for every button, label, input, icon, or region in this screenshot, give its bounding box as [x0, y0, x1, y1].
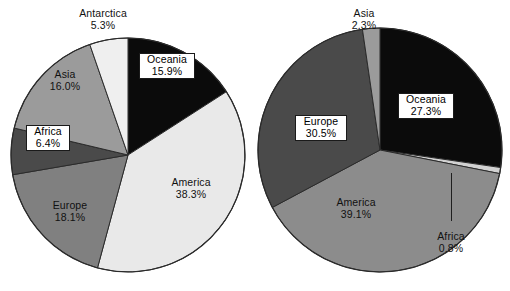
left-label-africa: Africa 6.4% — [26, 125, 70, 151]
right-label-africa-pct: 0.8% — [425, 243, 477, 255]
right-label-europe-pct: 30.5% — [299, 128, 343, 140]
left-label-asia-pct: 16.0% — [39, 81, 91, 93]
right-label-america-name: America — [325, 197, 387, 209]
left-label-america-pct: 38.3% — [158, 189, 224, 201]
left-label-africa-pct: 6.4% — [30, 138, 66, 150]
left-label-europe: Europe 18.1% — [39, 200, 101, 223]
right-label-asia-pct: 2.3% — [338, 20, 390, 32]
right-label-oceania-name: Oceania — [402, 94, 450, 106]
right-label-america: America 39.1% — [325, 197, 387, 220]
right-label-oceania-pct: 27.3% — [402, 106, 450, 118]
right-label-europe: Europe 30.5% — [295, 115, 347, 141]
left-pie-panel: Antarctica 5.3% Oceania 15.9% Asia 16.0%… — [0, 0, 255, 291]
right-label-asia: Asia 2.3% — [338, 8, 390, 31]
left-label-america-name: America — [158, 177, 224, 189]
left-label-africa-name: Africa — [30, 126, 66, 138]
left-label-europe-pct: 18.1% — [39, 212, 101, 224]
right-africa-leader-line — [451, 173, 452, 221]
right-label-oceania: Oceania 27.3% — [398, 93, 454, 119]
right-label-africa-name: Africa — [425, 231, 477, 243]
right-label-america-pct: 39.1% — [325, 209, 387, 221]
left-label-oceania: Oceania 15.9% — [139, 53, 195, 79]
pie-chart-figure: Antarctica 5.3% Oceania 15.9% Asia 16.0%… — [0, 0, 510, 291]
right-label-africa: Africa 0.8% — [425, 231, 477, 254]
right-label-asia-name: Asia — [338, 8, 390, 20]
left-label-oceania-pct: 15.9% — [143, 66, 191, 78]
left-label-antarctica-pct: 5.3% — [57, 20, 149, 32]
right-pie-panel: Asia 2.3% Oceania 27.3% Europe 30.5% Ame… — [255, 0, 510, 291]
left-label-antarctica: Antarctica 5.3% — [57, 8, 149, 31]
left-label-europe-name: Europe — [39, 200, 101, 212]
left-label-oceania-name: Oceania — [143, 54, 191, 66]
left-label-america: America 38.3% — [158, 177, 224, 200]
left-label-asia: Asia 16.0% — [39, 69, 91, 92]
left-label-asia-name: Asia — [39, 69, 91, 81]
right-label-europe-name: Europe — [299, 116, 343, 128]
left-label-antarctica-name: Antarctica — [57, 8, 149, 20]
